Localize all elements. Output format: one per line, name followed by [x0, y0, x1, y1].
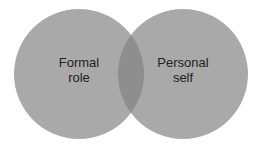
label-formal-role-line1: Formal: [39, 55, 119, 70]
label-personal-self: Personal self: [143, 55, 223, 85]
label-formal-role-line2: role: [39, 70, 119, 85]
label-formal-role: Formal role: [39, 55, 119, 85]
label-personal-self-line2: self: [143, 70, 223, 85]
label-personal-self-line1: Personal: [143, 55, 223, 70]
